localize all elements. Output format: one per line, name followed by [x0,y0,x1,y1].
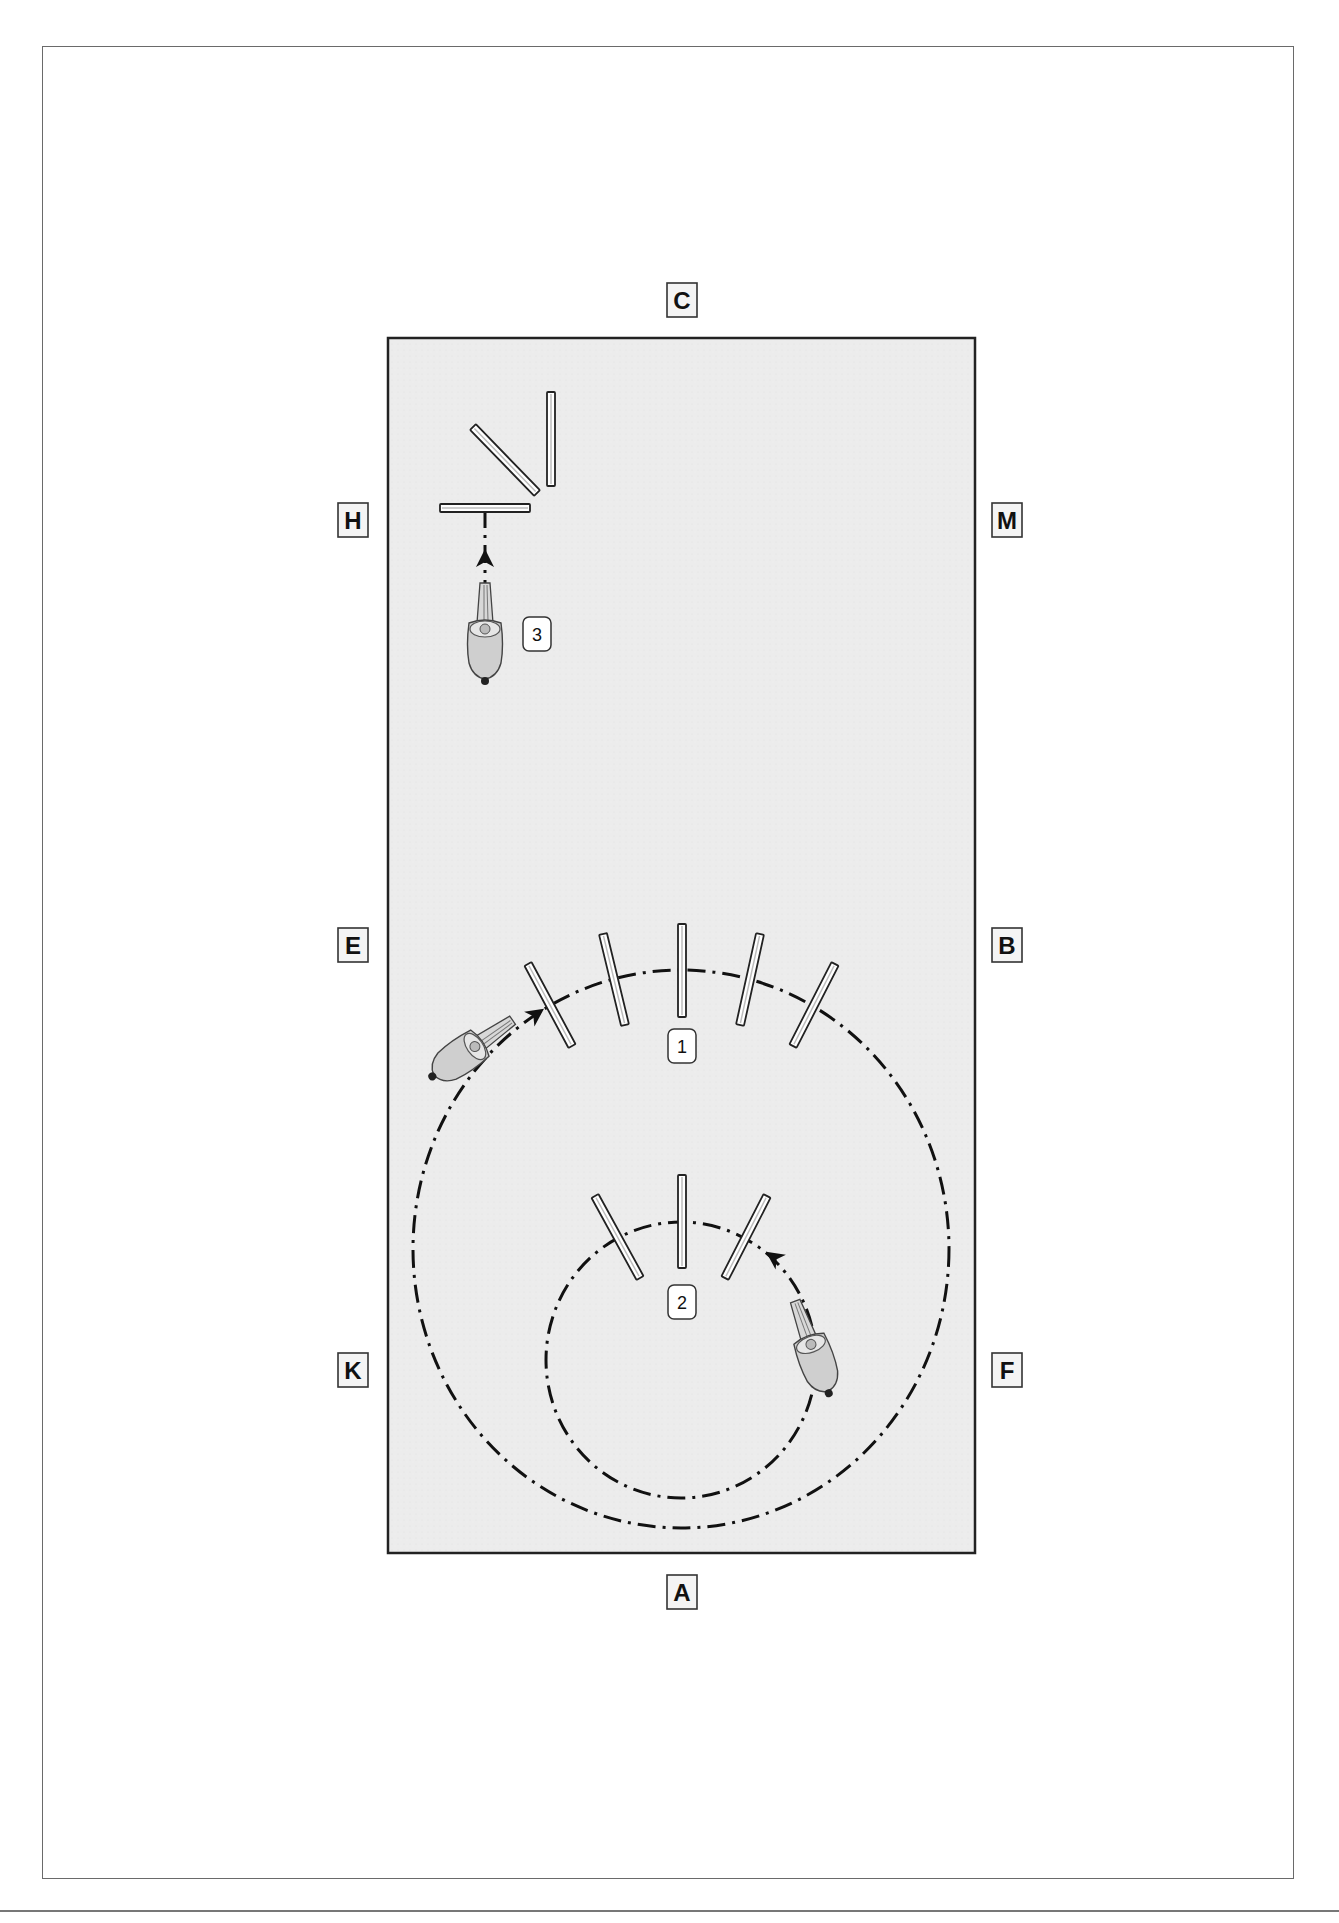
arena-marker-m: M [992,503,1022,537]
arena-marker-a: A [667,1575,697,1609]
arena-marker-label: K [344,1357,362,1384]
exercise-number-badge: 2 [668,1285,696,1319]
exercise-number-label: 3 [532,625,542,645]
arena-marker-h: H [338,503,368,537]
arena-marker-k: K [338,1353,368,1387]
arena-marker-f: F [992,1353,1022,1387]
arena-marker-label: M [997,507,1017,534]
arena-marker-label: C [673,287,690,314]
arena-marker-label: B [998,932,1015,959]
ground-pole [678,1175,686,1268]
exercise-number-label: 1 [677,1037,687,1057]
ground-pole [440,504,530,512]
exercise-number-label: 2 [677,1293,687,1313]
arena-marker-label: A [673,1579,690,1606]
arena-marker-b: B [992,928,1022,962]
arena-diagram: 123 CHMEBKFA [0,0,1339,1923]
arena-marker-label: E [345,932,361,959]
arena-marker-c: C [667,283,697,317]
ground-pole [547,392,555,486]
ground-pole [678,924,686,1017]
arena-marker-e: E [338,928,368,962]
exercise-number-badge: 1 [668,1029,696,1063]
arena-marker-label: H [344,507,361,534]
exercise-number-badge: 3 [523,617,551,651]
arena-marker-label: F [1000,1357,1015,1384]
